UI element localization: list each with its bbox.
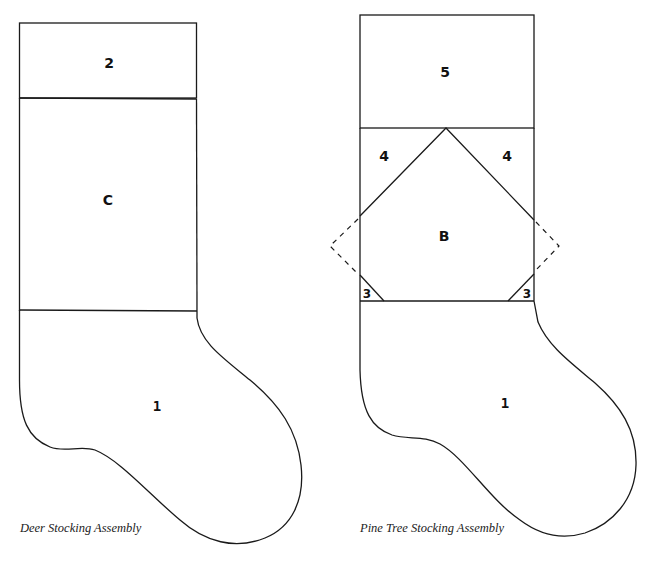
pine-tree-stocking: 5 4 4 B 3 3 1 [330, 15, 636, 536]
deer-stocking-caption: Deer Stocking Assembly [20, 521, 141, 536]
deer-foot-piece [20, 310, 302, 544]
pine-foot-label: 1 [501, 395, 509, 411]
deer-stocking: 2 C 1 [20, 23, 302, 544]
pine-corner-right-label: 4 [502, 148, 512, 164]
pine-cuff-label: 5 [440, 64, 450, 80]
deer-panel-label: C [103, 192, 113, 208]
deer-panel-right-edge [197, 99, 198, 311]
deer-cuff-label: 2 [104, 55, 114, 71]
pine-small-right-label: 3 [523, 287, 531, 301]
pine-dashed-right [536, 222, 559, 270]
pine-center-label: B [439, 228, 450, 244]
stocking-diagrams: 2 C 1 5 4 4 B 3 3 1 [0, 0, 655, 561]
pine-foot-piece [360, 301, 636, 536]
deer-foot-label: 1 [153, 398, 161, 414]
pine-center-block-top [360, 128, 534, 220]
deer-foot-seam [20, 310, 198, 311]
pine-small-left-label: 3 [363, 287, 371, 301]
pine-tree-stocking-caption: Pine Tree Stocking Assembly [360, 521, 504, 536]
pine-corner-left-label: 4 [379, 148, 389, 164]
pine-dashed-left [330, 219, 358, 272]
